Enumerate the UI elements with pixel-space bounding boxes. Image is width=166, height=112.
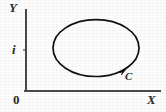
- y-axis-label: Y: [9, 1, 17, 14]
- origin-label: 0: [13, 93, 20, 106]
- figure-canvas: Y i 0 X C: [0, 0, 166, 112]
- curve-label-c: C: [125, 71, 132, 82]
- x-axis-label: X: [147, 93, 156, 106]
- y-axis-tick-label-i: i: [12, 43, 16, 56]
- figure-vector-graphic: [0, 0, 166, 112]
